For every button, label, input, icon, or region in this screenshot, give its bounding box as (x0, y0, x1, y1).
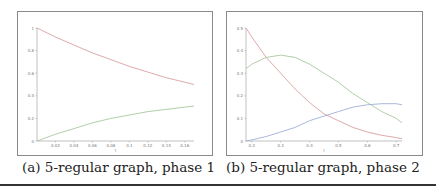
x-tick-label: 0.1 (126, 143, 133, 148)
series-line-increasing (37, 106, 194, 141)
y-tick-label: 0.8 (28, 48, 35, 53)
x-tick-label: 0.04 (69, 143, 78, 148)
x-tick-label: 0.12 (143, 143, 152, 148)
y-tick-label: 0.4 (237, 48, 244, 53)
caption-b: (b) 5-regular graph, phase 2 (226, 159, 420, 175)
x-tick-label: 0.7 (393, 143, 400, 148)
y-tick-label: 0.6 (28, 71, 35, 76)
x-tick-label: 0.2 (249, 143, 256, 148)
x-axis-label: t (115, 148, 117, 153)
x-tick-label: 0.4 (306, 143, 313, 148)
y-tick-label: 0.2 (28, 116, 35, 121)
x-tick-label: 0.02 (51, 143, 60, 148)
x-tick-label: 0.08 (106, 143, 115, 148)
series-line-decreasing (246, 28, 402, 139)
x-tick-label: 0.5 (335, 143, 342, 148)
series-line-decreasing (37, 28, 194, 85)
caption-a: (a) 5-regular graph, phase 1 (22, 159, 215, 175)
y-tick-label: 0.4 (28, 93, 35, 98)
y-tick-label: 0.3 (237, 71, 244, 76)
y-tick-label: 0 (31, 139, 34, 144)
y-tick-label: 1 (31, 26, 34, 31)
y-tick-label: 0.5 (237, 26, 244, 31)
x-tick-label: 0.06 (88, 143, 97, 148)
x-tick-label: 0.14 (162, 143, 171, 148)
chart-a: 0.020.040.060.080.10.120.140.1600.20.40.… (28, 26, 194, 154)
chart-b: 0.20.30.40.50.60.700.10.20.30.40.5t (237, 26, 402, 154)
bottom-rule (0, 184, 436, 186)
x-tick-label: 0.6 (364, 143, 371, 148)
y-tick-label: 0.1 (237, 116, 244, 121)
x-axis-label: t (323, 148, 325, 153)
x-tick-label: 0.3 (277, 143, 284, 148)
y-tick-label: 0 (240, 139, 243, 144)
y-tick-label: 0.2 (237, 93, 244, 98)
series-line-hump (246, 55, 402, 123)
x-tick-label: 0.16 (180, 143, 189, 148)
